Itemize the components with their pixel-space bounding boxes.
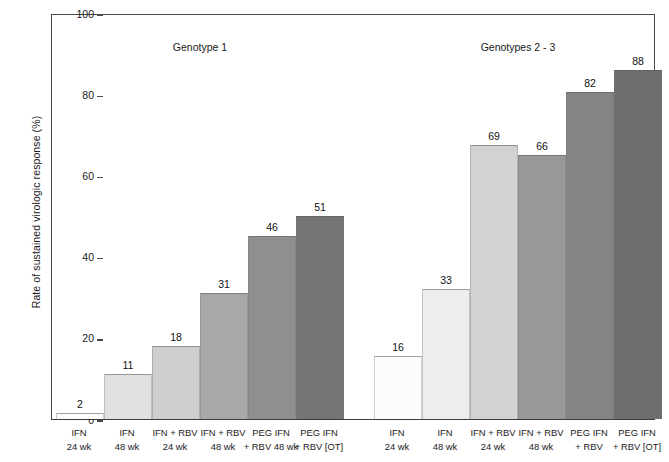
bar-value-label: 18 (170, 331, 182, 343)
bar-value-label: 33 (440, 274, 452, 286)
bar-g1-2: 11 (104, 374, 152, 419)
y-tick-label: 60 (82, 170, 94, 182)
x-label-g1-1: IFN24 wk (67, 426, 92, 453)
x-label-line1: IFN (119, 427, 134, 438)
x-label-line1: IFN + RBV (200, 427, 245, 438)
x-label-line1: IFN (389, 427, 404, 438)
bar-g2-6: 88 (614, 70, 662, 419)
y-tick-mark (97, 177, 103, 178)
bar-chart: Rate of sustained virologic response (%)… (0, 0, 669, 462)
x-label-g2-4: IFN + RBV48 wk (518, 426, 563, 453)
bar-value-label: 31 (218, 278, 230, 290)
bar-g2-3: 69 (470, 145, 518, 419)
bar-g1-1: 2 (56, 413, 104, 419)
x-label-line1: IFN + RBV (152, 427, 197, 438)
y-tick-mark (97, 339, 103, 340)
bar-g2-5: 82 (566, 92, 614, 419)
group-title-1: Genotype 1 (173, 41, 227, 53)
x-label-line2: 48 wk (518, 440, 563, 454)
x-label-line1: IFN + RBV (518, 427, 563, 438)
y-tick-label: 80 (82, 89, 94, 101)
x-label-g2-2: IFN48 wk (433, 426, 458, 453)
x-label-line2: 48 wk (433, 440, 458, 454)
bar-value-label: 69 (488, 130, 500, 142)
bar-value-label: 82 (584, 77, 596, 89)
y-tick-mark (97, 14, 103, 15)
x-label-g2-5: PEG IFN+ RBV (570, 426, 608, 453)
y-tick-mark (97, 420, 103, 421)
x-label-line2: + RBV [OT] (613, 440, 661, 454)
x-label-g1-3: IFN + RBV24 wk (152, 426, 197, 453)
x-label-line2: 48 wk (115, 440, 140, 454)
bar-g1-6: 51 (296, 216, 344, 419)
x-label-g2-3: IFN + RBV24 wk (470, 426, 515, 453)
x-label-g2-6: PEG IFN+ RBV [OT] (613, 426, 661, 453)
x-label-line2: 24 wk (470, 440, 515, 454)
x-label-line1: IFN + RBV (470, 427, 515, 438)
bar-value-label: 11 (123, 359, 134, 371)
y-tick-label: 40 (82, 251, 94, 263)
bar-value-label: 46 (266, 221, 278, 233)
x-label-line1: IFN (437, 427, 452, 438)
y-tick-label: 20 (82, 332, 94, 344)
x-label-line2: + RBV 48 wk (244, 440, 298, 454)
bar-g2-1: 16 (374, 356, 422, 419)
x-label-line2: + RBV [OT] (295, 440, 343, 454)
x-label-line2: 24 wk (385, 440, 410, 454)
x-label-line1: PEG IFN (300, 427, 338, 438)
x-label-g1-5: PEG IFN+ RBV 48 wk (244, 426, 298, 453)
bar-value-label: 2 (77, 398, 83, 410)
x-label-g2-1: IFN24 wk (385, 426, 410, 453)
x-label-line2: + RBV (570, 440, 608, 454)
x-label-g1-2: IFN48 wk (115, 426, 140, 453)
x-label-line2: 24 wk (67, 440, 92, 454)
x-label-line1: PEG IFN (252, 427, 290, 438)
bar-value-label: 88 (632, 55, 644, 67)
bar-g2-2: 33 (422, 289, 470, 419)
y-tick-mark (97, 96, 103, 97)
x-label-g1-4: IFN + RBV48 wk (200, 426, 245, 453)
bar-value-label: 51 (314, 201, 326, 213)
plot-area: 020406080100 Genotype 1Genotypes 2 - 3 2… (51, 14, 655, 420)
x-label-line1: IFN (71, 427, 86, 438)
x-label-line2: 48 wk (200, 440, 245, 454)
y-axis-title: Rate of sustained virologic response (%) (30, 82, 42, 342)
x-label-line1: PEG IFN (618, 427, 656, 438)
x-label-line1: PEG IFN (570, 427, 608, 438)
y-tick-mark (97, 258, 103, 259)
bar-g1-5: 46 (248, 236, 296, 419)
x-label-line2: 24 wk (152, 440, 197, 454)
bar-g2-4: 66 (518, 155, 566, 419)
x-label-g1-6: PEG IFN+ RBV [OT] (295, 426, 343, 453)
group-title-2: Genotypes 2 - 3 (481, 41, 556, 53)
y-tick-label: 100 (76, 8, 94, 20)
bar-g1-3: 18 (152, 346, 200, 419)
bar-value-label: 16 (392, 341, 404, 353)
bar-value-label: 66 (536, 140, 548, 152)
bar-g1-4: 31 (200, 293, 248, 419)
